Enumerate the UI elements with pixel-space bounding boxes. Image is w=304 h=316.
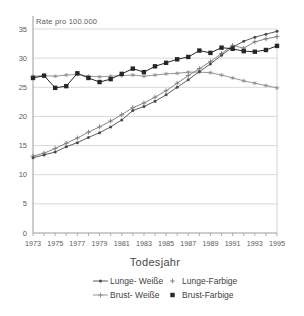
svg-text:1985: 1985 (158, 239, 174, 248)
legend-label: Lunge- Weiße (110, 276, 163, 286)
dot-line-marker-icon (92, 276, 110, 286)
svg-text:1979: 1979 (92, 239, 108, 248)
chart-title: Rate pro 100.000 (36, 17, 97, 26)
svg-text:5: 5 (23, 199, 27, 208)
svg-text:1991: 1991 (225, 239, 241, 248)
svg-text:1989: 1989 (202, 239, 218, 248)
svg-text:1995: 1995 (269, 239, 285, 248)
svg-text:35: 35 (19, 25, 27, 34)
svg-text:10: 10 (19, 170, 27, 179)
x-axis-title: Todesjahr (33, 256, 277, 268)
svg-text:1987: 1987 (180, 239, 196, 248)
svg-text:1977: 1977 (69, 239, 85, 248)
square-marker-icon (164, 290, 182, 300)
svg-text:25: 25 (19, 83, 27, 92)
svg-text:30: 30 (19, 54, 27, 63)
svg-text:1993: 1993 (247, 239, 263, 248)
legend-item-lunge-farbige: Lunge-Farbige (164, 276, 237, 286)
svg-text:1975: 1975 (47, 239, 63, 248)
svg-text:1983: 1983 (136, 239, 152, 248)
chart-figure: 0510152025303519731975197719791981198319… (0, 0, 304, 316)
svg-text:20: 20 (19, 112, 27, 121)
legend-label: Brust-Farbige (182, 290, 234, 300)
legend: Lunge- Weiße Lunge-Farbige Brust- Weiße … (92, 276, 237, 300)
svg-text:1973: 1973 (25, 239, 41, 248)
svg-text:0: 0 (23, 229, 27, 238)
svg-text:1981: 1981 (114, 239, 130, 248)
legend-label: Brust- Weiße (110, 290, 159, 300)
plus-line-marker-icon (92, 290, 110, 300)
legend-item-brust-weisse: Brust- Weiße (92, 290, 162, 300)
plus-marker-icon (164, 276, 182, 286)
legend-item-brust-farbige: Brust-Farbige (164, 290, 237, 300)
svg-text:15: 15 (19, 141, 27, 150)
legend-label: Lunge-Farbige (182, 276, 237, 286)
plot-area: 0510152025303519731975197719791981198319… (0, 0, 304, 316)
legend-item-lunge-weisse: Lunge- Weiße (92, 276, 162, 286)
